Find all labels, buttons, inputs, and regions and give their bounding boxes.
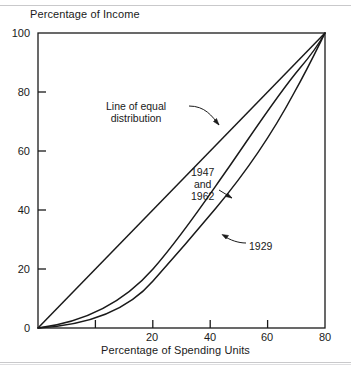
arrowhead-1947-1962 <box>226 193 233 198</box>
y-axis-ticks <box>38 92 46 269</box>
annotation-equal-distribution-line1: Line of equal <box>106 100 166 112</box>
annotation-1929-line1: 1929 <box>249 240 272 252</box>
annotation-1947-line1: 1947 <box>191 166 214 178</box>
annotation-leader-1929 <box>222 235 246 244</box>
annotation-and-line2: and <box>191 178 214 190</box>
annotation-1947-and-1962: 1947 and 1962 <box>191 166 214 202</box>
lorenz-curve-figure: Percentage of Income Percentage of Spend… <box>0 0 351 371</box>
annotation-1962-line3: 1962 <box>191 190 214 202</box>
series-line-of-equal-distribution <box>38 33 325 328</box>
annotation-equal-distribution-line2: distribution <box>106 112 166 124</box>
annotation-line-of-equal-distribution: Line of equal distribution <box>106 100 166 124</box>
x-axis-ticks <box>95 320 267 328</box>
annotation-1929: 1929 <box>249 240 272 252</box>
annotation-leader-equal-distribution <box>189 106 219 125</box>
plot-canvas <box>0 0 351 371</box>
